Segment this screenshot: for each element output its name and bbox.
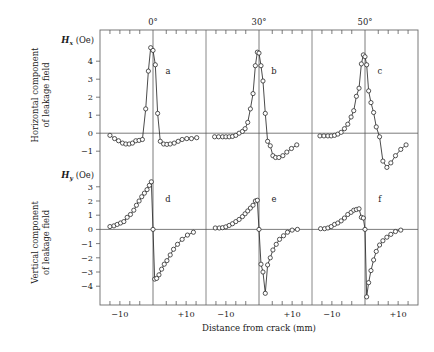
leakage-field-figure: 0°30°50°−10+10−10+10−10+10Distance from …: [0, 0, 434, 352]
data-point: [271, 248, 275, 252]
data-point: [213, 135, 217, 139]
data-point: [369, 268, 373, 272]
data-point: [374, 249, 378, 253]
y-tick-label: −1: [81, 146, 93, 156]
x-tick-label: +10: [389, 309, 406, 319]
data-point: [189, 137, 193, 141]
x-tick-label: −10: [217, 309, 234, 319]
row2-side-caption-line1: Vertical component: [30, 201, 40, 285]
top-angle-label: 30°: [252, 17, 267, 27]
data-point: [168, 142, 172, 146]
data-point: [369, 101, 373, 105]
data-point: [175, 242, 179, 246]
data-point: [132, 208, 136, 212]
row1-side-caption-line1: Horizontal component: [30, 47, 40, 142]
hx-axis-label: Hx (Oe): [60, 35, 94, 46]
data-point: [352, 109, 356, 113]
data-point: [180, 237, 184, 241]
y-tick-label: 1: [88, 110, 93, 120]
row2-side-caption: Vertical componentof leakage field: [30, 201, 51, 285]
y-tick-label: −2: [81, 253, 93, 263]
data-point: [134, 203, 138, 207]
data-point: [151, 227, 155, 231]
data-point: [251, 92, 255, 96]
data-point: [359, 62, 363, 66]
data-point: [259, 262, 263, 266]
data-point: [243, 127, 247, 131]
y-tick-label: 0: [88, 128, 93, 138]
data-point: [367, 281, 371, 285]
data-point: [404, 143, 408, 147]
data-point: [342, 216, 346, 220]
top-angle-label: 0°: [148, 17, 158, 27]
data-point: [128, 212, 132, 216]
panel-letter-e: e: [271, 194, 276, 204]
data-point: [263, 111, 267, 115]
data-point: [144, 107, 148, 111]
panel-f: [319, 207, 403, 299]
data-point: [261, 270, 265, 274]
data-point: [153, 63, 157, 67]
y-tick-label: −3: [81, 267, 93, 277]
series-line-c: [320, 55, 406, 167]
hx-axis-label-text: Hx (Oe): [60, 35, 94, 46]
data-point: [251, 203, 255, 207]
data-point: [108, 224, 112, 228]
data-point: [285, 230, 289, 234]
data-point: [281, 234, 285, 238]
data-point: [389, 161, 393, 165]
data-point: [318, 134, 322, 138]
data-point: [246, 120, 250, 124]
data-point: [295, 227, 299, 231]
data-point: [176, 139, 180, 143]
data-point: [277, 237, 281, 241]
x-tick-label: −10: [111, 309, 128, 319]
panel-d: [108, 180, 196, 282]
data-point: [195, 136, 199, 140]
data-point: [357, 86, 361, 90]
data-point: [372, 258, 376, 262]
data-point: [149, 180, 153, 184]
data-point: [180, 137, 184, 141]
data-point: [361, 216, 365, 220]
panel-letter-c: c: [378, 66, 383, 76]
panel-c: [318, 53, 408, 170]
panel-letter-a: a: [165, 66, 170, 76]
data-point: [157, 273, 161, 277]
data-point: [112, 137, 116, 141]
data-point: [377, 243, 381, 247]
top-angle-label: 50°: [358, 17, 373, 27]
data-point: [165, 259, 169, 263]
data-point: [381, 239, 385, 243]
data-point: [346, 122, 350, 126]
data-point: [367, 89, 371, 93]
data-point: [266, 263, 270, 267]
data-point: [108, 133, 112, 137]
data-point: [160, 267, 164, 271]
data-point: [140, 137, 144, 141]
data-point: [393, 154, 397, 158]
data-point: [389, 232, 393, 236]
data-point: [146, 69, 150, 73]
y-tick-label: 1: [88, 210, 93, 220]
y-tick-label: 0: [88, 224, 93, 234]
data-point: [185, 137, 189, 141]
data-point: [263, 291, 267, 295]
panel-letter-f: f: [378, 194, 382, 204]
data-point: [363, 227, 367, 231]
data-point: [322, 134, 326, 138]
data-point: [363, 55, 367, 59]
data-point: [285, 150, 289, 154]
data-point: [399, 228, 403, 232]
data-point: [354, 94, 358, 98]
axis-unit: (Oe): [73, 35, 94, 45]
y-tick-label: 4: [88, 56, 93, 66]
data-point: [261, 79, 265, 83]
data-point: [216, 135, 220, 139]
hy-axis-label: Hy (Oe): [60, 170, 94, 182]
y-tick-label: 3: [88, 74, 93, 84]
panel-b: [213, 50, 299, 159]
x-axis-title: Distance from crack (mm): [202, 323, 316, 333]
data-point: [248, 107, 252, 111]
panel-letter-b: b: [271, 66, 276, 76]
